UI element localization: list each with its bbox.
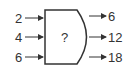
output-value-2: 12 xyxy=(108,31,122,44)
output-value-1: 6 xyxy=(108,10,115,23)
input-value-3: 6 xyxy=(15,51,22,64)
output-value-3: 18 xyxy=(108,51,122,64)
machine-rule-label: ? xyxy=(61,31,68,44)
input-value-2: 4 xyxy=(15,31,22,44)
input-value-1: 2 xyxy=(15,12,22,25)
